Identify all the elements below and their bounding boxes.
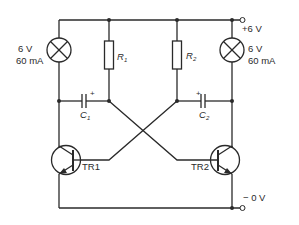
tr2-label: TR2 bbox=[191, 162, 209, 172]
circuit-diagram: +6 V − 0 V 6 V 60 mA 6 V 60 mA R1 R2 + +… bbox=[0, 0, 299, 225]
c1-polarity: + bbox=[90, 89, 95, 99]
r1-label: R1 bbox=[117, 52, 127, 65]
c2-label: C2 bbox=[199, 110, 209, 123]
resistor-r2 bbox=[173, 41, 182, 69]
ground-terminal bbox=[240, 206, 245, 211]
lamp-2-icon bbox=[220, 38, 244, 62]
tr1-label: TR1 bbox=[82, 162, 100, 172]
transistor-tr1-icon bbox=[52, 146, 81, 175]
lamp-1-icon bbox=[47, 38, 71, 62]
lamp-1-current: 60 mA bbox=[16, 56, 43, 66]
c2-polarity: + bbox=[196, 89, 201, 99]
capacitor-c1 bbox=[59, 94, 109, 108]
capacitor-c2 bbox=[177, 94, 232, 108]
positive-terminal bbox=[240, 18, 245, 23]
lamp-2-voltage: 6 V bbox=[248, 44, 262, 54]
lamp-2-current: 60 mA bbox=[248, 56, 275, 66]
ground-supply-label: − 0 V bbox=[243, 193, 265, 203]
positive-supply-label: +6 V bbox=[242, 24, 262, 34]
r2-label: R2 bbox=[186, 51, 196, 64]
c1-label: C1 bbox=[80, 110, 90, 123]
transistor-tr2-icon bbox=[180, 146, 240, 175]
resistor-r1 bbox=[105, 41, 114, 69]
lamp-1-voltage: 6 V bbox=[18, 44, 32, 54]
